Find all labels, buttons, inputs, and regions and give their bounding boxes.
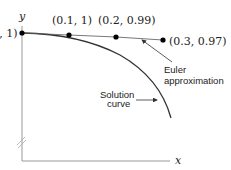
x-axis-label: x — [175, 154, 182, 167]
euler-annotation-line1: Euler — [164, 64, 186, 75]
point-3 — [160, 37, 165, 42]
point-label-2: (0.2, 0.99) — [98, 14, 156, 27]
point-1 — [66, 32, 71, 37]
euler-annotation-line2: approximation — [164, 75, 224, 86]
point-2 — [113, 34, 118, 39]
euler-diagram: y x (0, 1) (0.1, 1) (0.2, 0.99) (0.3, 0.… — [0, 0, 231, 170]
y-axis-label: y — [18, 10, 26, 23]
euler-approximation-line — [22, 33, 163, 40]
point-label-1: (0.1, 1) — [52, 14, 92, 27]
point-label-3: (0.3, 0.97) — [169, 35, 227, 48]
point-label-0: (0, 1) — [0, 27, 18, 40]
euler-pointer-arrow — [142, 40, 172, 62]
solution-curve — [22, 33, 171, 118]
solution-annotation-line2: curve — [107, 98, 130, 109]
point-0 — [19, 30, 24, 35]
